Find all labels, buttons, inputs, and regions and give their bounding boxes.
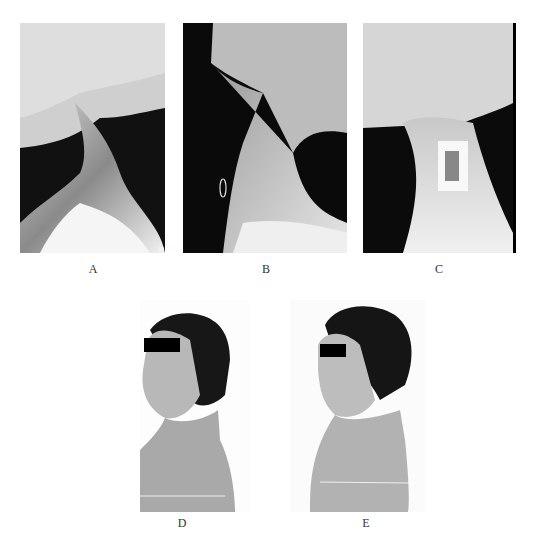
xray-image-b [183,23,347,253]
panel-label-c: C [429,262,449,277]
eye-bar-e [320,344,346,357]
xray-panel-c [363,23,516,253]
xray-panel-b [183,23,347,253]
panel-label-a: A [83,262,103,277]
patient-photo-d [140,300,250,512]
xray-image-c [363,23,516,253]
panel-label-d: D [172,516,192,531]
xray-panel-a: ------ 100 [20,23,165,253]
xray-image-a: ------ 100 [20,23,165,253]
patient-photo-e [290,300,425,512]
photo-panel-e [290,300,425,512]
svg-text:100: 100 [158,246,164,251]
photo-panel-d [140,300,250,512]
eye-bar-d [144,338,180,352]
xray-overlay-text: ------ [130,239,139,244]
panel-label-e: E [356,516,376,531]
panel-label-b: B [256,262,276,277]
